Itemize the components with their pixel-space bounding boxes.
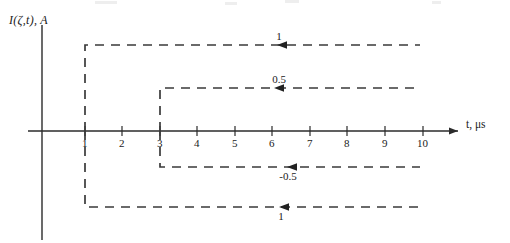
amplitude-label-inner-upper: 0.5 (272, 73, 286, 85)
tick-label-8: 8 (344, 137, 350, 149)
amplitude-label-outer-upper: 1 (276, 30, 282, 42)
trace-outer-lower (85, 131, 420, 207)
tick-label-2: 2 (119, 137, 125, 149)
amplitude-label-outer-lower: 1 (278, 210, 284, 222)
tick-label-6: 6 (269, 137, 275, 149)
amplitude-label-inner-lower: -0.5 (279, 170, 297, 182)
tick-label-9: 9 (382, 137, 388, 149)
x-axis-arrowhead (449, 127, 458, 134)
x-axis-label: t, μs (466, 118, 486, 131)
tick-label-10: 10 (417, 137, 429, 149)
waveform-figure: I(ζ,t), A 1 2 3 4 5 6 7 (0, 0, 510, 243)
plot-canvas: 1 2 3 4 5 6 7 8 9 10 t, μs 1 0.5 -0.5 (0, 0, 510, 243)
x-axis-tick-labels: 1 2 3 4 5 6 7 8 9 10 (82, 137, 429, 149)
tick-label-7: 7 (307, 137, 313, 149)
arrowhead-outer-upper (277, 41, 287, 48)
tick-label-5: 5 (232, 137, 238, 149)
trace-inner-upper (160, 88, 420, 131)
tick-label-4: 4 (194, 137, 200, 149)
arrowhead-inner-upper (274, 84, 284, 91)
